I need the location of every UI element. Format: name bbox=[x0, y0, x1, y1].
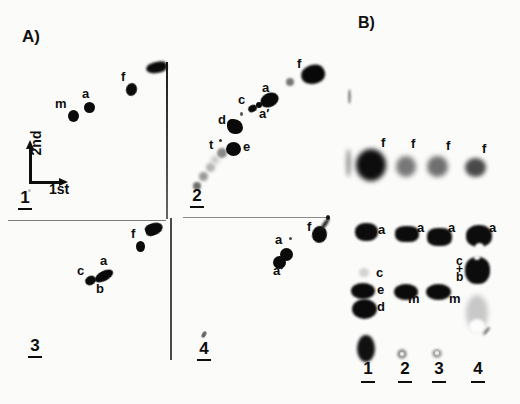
b-lane3-band-f bbox=[427, 156, 448, 177]
q1-spot-label-m: m bbox=[55, 97, 67, 110]
b-lane1-label-a: a bbox=[378, 223, 385, 236]
quadrant-label-4: 4 bbox=[197, 340, 211, 361]
panel-a-title: A) bbox=[22, 28, 40, 45]
q1-spot-a bbox=[84, 102, 95, 113]
q3-spot-f bbox=[136, 241, 145, 252]
lane-label-2: 2 bbox=[398, 360, 412, 383]
quadrant-label-2: 2 bbox=[190, 187, 204, 208]
q4-speck-above-label bbox=[201, 330, 208, 338]
b-lane2-band-a bbox=[395, 226, 419, 242]
b-lane4-label-f: f bbox=[482, 142, 486, 155]
panel-a-divider-horizontal-right bbox=[183, 217, 330, 218]
q1-spot-label-f: f bbox=[121, 70, 125, 83]
q4-spot-label-a-prime: a′ bbox=[273, 264, 283, 277]
b-lane1-band-c-faint bbox=[359, 268, 369, 277]
panel-a-divider-vertical-top bbox=[166, 62, 168, 219]
q2-spot-d bbox=[227, 119, 243, 134]
q2-spot-f bbox=[298, 61, 327, 87]
q2-spot-label-d: d bbox=[218, 113, 226, 126]
b-lane3-label-m: m bbox=[449, 292, 461, 305]
b-lane3-origin-dot-center bbox=[435, 351, 439, 355]
b-lane4-band-cb-notch bbox=[474, 255, 480, 260]
q3-corner-blob bbox=[143, 220, 164, 237]
q2-spot-label-a-prime: a′ bbox=[259, 107, 269, 120]
b-lane1-label-d: d bbox=[377, 300, 385, 313]
b-lane4-band-cb bbox=[465, 257, 490, 284]
q3-spot-label-c: c bbox=[77, 264, 84, 277]
q4-corner-tick bbox=[326, 215, 330, 220]
panel-a-divider-horizontal-left bbox=[8, 220, 166, 221]
q1-spot-f bbox=[124, 81, 138, 96]
q4-speck bbox=[289, 237, 292, 240]
b-lane4-band-f bbox=[465, 158, 486, 177]
q2-spot-label-f: f bbox=[297, 57, 301, 70]
q2-spot-f-satellite bbox=[286, 78, 294, 86]
quadrant-label-3: 3 bbox=[28, 337, 42, 358]
b-lane3-band-m bbox=[426, 284, 451, 300]
panel-a-divider-vertical-bottom bbox=[170, 218, 172, 360]
b-lane4-label-a: a bbox=[489, 221, 496, 234]
q2-t-asterisk bbox=[219, 139, 222, 142]
q4-spot-label-f: f bbox=[307, 220, 311, 233]
q2-speck bbox=[240, 112, 243, 116]
b-lane2-label-f: f bbox=[411, 137, 415, 150]
figure: A) B) 2nd 1st maftedcaa′ffacbfaa′ffffaaa… bbox=[0, 0, 520, 404]
b-edge-smear bbox=[346, 149, 351, 177]
b-lane2-label-m: m bbox=[408, 292, 420, 305]
b-lane4-band-a-notch bbox=[475, 243, 484, 252]
q2-arc-spot bbox=[199, 172, 208, 181]
q4-spot-label-a: a bbox=[275, 233, 282, 246]
q4-spot-f bbox=[310, 224, 328, 243]
b-lane4-label-b: b bbox=[456, 271, 463, 283]
q1-spot-label-a: a bbox=[82, 87, 89, 100]
b-lane1-band-a bbox=[355, 223, 378, 241]
b-lane1-band-f bbox=[356, 149, 386, 181]
lane-label-4: 4 bbox=[471, 360, 485, 383]
b-lane3-label-f: f bbox=[446, 139, 450, 152]
b-lane2-origin-dot-center bbox=[400, 352, 404, 356]
quadrant-label-1: 1 bbox=[18, 189, 32, 210]
panel-b-title: B) bbox=[358, 15, 375, 31]
b-lane2-band-f bbox=[396, 156, 416, 177]
b-lane1-band-d bbox=[352, 299, 377, 319]
q2-spot-label-e: e bbox=[243, 140, 250, 153]
q2-spot-label-t: t bbox=[209, 138, 213, 151]
b-lane1-label-c: c bbox=[376, 266, 383, 279]
b-lane1-label-f: f bbox=[381, 136, 385, 149]
axis-2nd-label: 2nd bbox=[29, 131, 43, 156]
q2-spot-label-a: a bbox=[262, 81, 269, 94]
b-lane1-band-e bbox=[351, 283, 375, 299]
b-lane2-label-a: a bbox=[417, 221, 424, 234]
axis-1st-label: 1st bbox=[49, 182, 69, 196]
lane-label-3: 3 bbox=[432, 360, 446, 383]
q1-corner-blob bbox=[145, 60, 168, 74]
q2-arc-spot bbox=[211, 156, 219, 164]
q2-spot-label-c: c bbox=[238, 93, 245, 106]
q1-spot-m bbox=[68, 110, 79, 122]
b-lane1-origin-spot bbox=[357, 335, 375, 362]
q3-spot-label-f: f bbox=[131, 227, 135, 240]
q3-spot-label-b: b bbox=[96, 282, 104, 295]
q2-spot-e bbox=[226, 142, 241, 156]
b-lane1-label-e: e bbox=[377, 283, 384, 296]
b-lane3-label-a: a bbox=[448, 221, 455, 234]
b-edge-dash bbox=[348, 89, 351, 104]
lane-label-1: 1 bbox=[361, 360, 375, 383]
q3-spot-label-a: a bbox=[100, 254, 107, 267]
b-lane4-smear-highlight bbox=[469, 319, 485, 333]
